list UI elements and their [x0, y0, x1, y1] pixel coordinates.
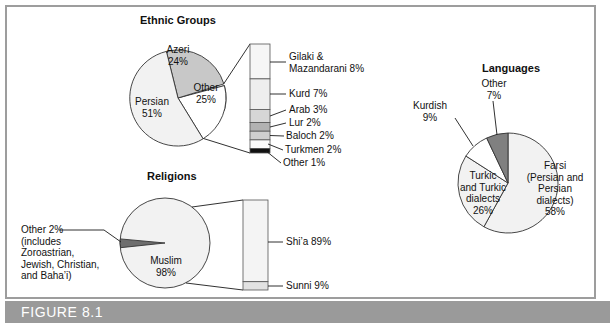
languages-kurdish-value: 9%: [406, 112, 454, 124]
languages-leader-other: [493, 101, 497, 135]
languages-pie-label-kurdish: Kurdish 9%: [406, 100, 454, 123]
languages-pie-label-turkic: Turkic and Turkic dialects 26%: [452, 170, 514, 216]
languages-other-value: 7%: [472, 90, 516, 102]
languages-leader-kurdish: [455, 118, 473, 146]
languages-pie-label-farsi: Farsi (Persian and Persian dialects) 58%: [518, 160, 592, 218]
languages-farsi-value: 58%: [518, 206, 592, 218]
languages-turkic-line1: Turkic: [452, 170, 514, 182]
figure-container: Ethnic Groups Azeri 24% Pers: [0, 0, 610, 331]
languages-farsi-line1: Farsi: [518, 160, 592, 172]
languages-turkic-value: 26%: [452, 205, 514, 217]
languages-turkic-line2: and Turkic: [452, 182, 514, 194]
languages-other-name: Other: [472, 78, 516, 90]
languages-farsi-line3: Persian: [518, 183, 592, 195]
figure-caption-bar: FIGURE 8.1: [5, 301, 610, 323]
languages-turkic-line3: dialects: [452, 193, 514, 205]
figure-number-label: FIGURE 8.1: [21, 304, 103, 320]
languages-farsi-line2: (Persian and: [518, 172, 592, 184]
languages-kurdish-name: Kurdish: [406, 100, 454, 112]
languages-pie-label-other: Other 7%: [472, 78, 516, 101]
languages-farsi-line4: dialects): [518, 195, 592, 207]
